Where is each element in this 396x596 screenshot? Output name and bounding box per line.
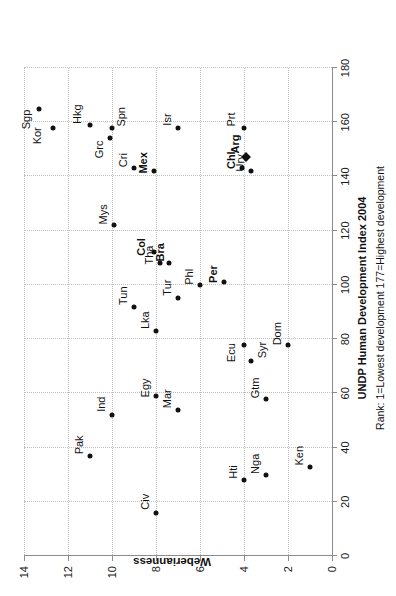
x-axis-tick	[332, 284, 337, 285]
gridline-horizontal	[244, 68, 245, 556]
data-point[interactable]	[88, 122, 93, 127]
x-axis-tick-label: 60	[339, 387, 351, 399]
data-point-label: Spn	[115, 107, 127, 127]
gridline-horizontal	[112, 68, 113, 556]
x-axis-tick-label: 120	[339, 221, 351, 239]
x-axis-tick-label: 100	[339, 276, 351, 294]
gridline-vertical	[24, 175, 332, 176]
data-point-label: Ken	[293, 446, 305, 466]
gridline-vertical	[24, 501, 332, 502]
data-point[interactable]	[132, 304, 137, 309]
data-point[interactable]	[176, 296, 181, 301]
data-point-label: Prt	[225, 112, 237, 126]
data-point-label: Egy	[139, 378, 151, 397]
data-point[interactable]	[154, 510, 159, 515]
x-axis-tick-label: 140	[339, 167, 351, 185]
x-axis-title: UNDP Human Development Index 2004	[356, 0, 368, 596]
x-axis-tick-label: 0	[339, 553, 351, 559]
data-point-label: Gtm	[249, 378, 261, 399]
x-axis-subtitle: Rank: 1=Lowest development 177=Highest d…	[374, 0, 386, 596]
data-point[interactable]	[242, 342, 247, 347]
gridline-horizontal	[200, 68, 201, 556]
data-point[interactable]	[248, 169, 253, 174]
data-point[interactable]	[308, 464, 313, 469]
data-point[interactable]	[264, 396, 269, 401]
y-axis-tick	[332, 556, 333, 561]
plot-area	[24, 68, 332, 556]
data-point[interactable]	[37, 106, 42, 111]
data-point-label: Ecu	[225, 343, 237, 362]
data-point-label: Civ	[139, 494, 151, 510]
data-point[interactable]	[112, 223, 117, 228]
x-axis-line	[332, 67, 333, 556]
x-axis-tick-label: 180	[339, 59, 351, 77]
gridline-vertical	[24, 338, 332, 339]
data-point[interactable]	[151, 169, 156, 174]
gridline-vertical	[24, 230, 332, 231]
data-point[interactable]	[154, 328, 159, 333]
data-point-label: Mar	[161, 389, 173, 408]
data-point-label: Dom	[271, 322, 283, 345]
data-point-label: Grc	[93, 140, 105, 158]
data-point-label: Pak	[73, 435, 85, 454]
gridline-vertical	[24, 447, 332, 448]
data-point[interactable]	[242, 478, 247, 483]
gridline-vertical	[24, 284, 332, 285]
y-axis-title: Weberianness	[22, 556, 322, 568]
gridline-horizontal	[156, 68, 157, 556]
data-point[interactable]	[286, 342, 291, 347]
rotated-chart-canvas: 02040608010012014016018002468101214 SgpK…	[0, 0, 396, 596]
data-point[interactable]	[248, 358, 253, 363]
x-axis-tick	[332, 338, 337, 339]
data-point[interactable]	[167, 261, 172, 266]
x-axis-tick	[332, 67, 337, 68]
data-point-label: Kor	[31, 127, 43, 144]
data-point[interactable]	[176, 407, 181, 412]
x-axis-tick	[332, 121, 337, 122]
x-axis-tick-label: 80	[339, 333, 351, 345]
x-axis-tick	[332, 447, 337, 448]
data-point[interactable]	[88, 453, 93, 458]
gridline-horizontal	[68, 68, 69, 556]
data-point-label: Mex	[137, 152, 149, 173]
gridline-vertical	[24, 67, 332, 68]
data-point-label: Hti	[227, 465, 239, 478]
data-point-label: Mys	[97, 204, 109, 224]
data-point[interactable]	[132, 166, 137, 171]
data-point-label: Nga	[249, 454, 261, 474]
data-point-label: Ind	[95, 397, 107, 412]
data-point[interactable]	[110, 125, 115, 130]
y-axis-tick-label: 0	[326, 566, 338, 572]
gridline-vertical	[24, 392, 332, 393]
data-point[interactable]	[242, 125, 247, 130]
data-point-label: Syr	[256, 342, 268, 359]
data-point[interactable]	[176, 125, 181, 130]
data-point[interactable]	[50, 125, 55, 130]
x-axis-tick	[332, 230, 337, 231]
gridline-horizontal	[288, 68, 289, 556]
data-point-label: Bra	[154, 243, 166, 261]
data-point[interactable]	[222, 280, 227, 285]
data-point-label: Arg	[229, 134, 241, 153]
data-point[interactable]	[264, 472, 269, 477]
x-axis-tick-label: 40	[339, 441, 351, 453]
data-point-label: Lka	[139, 311, 151, 329]
x-axis-tick	[332, 392, 337, 393]
data-point-label: Tun	[117, 286, 129, 305]
gridline-horizontal	[24, 68, 25, 556]
data-point-label: Hkg	[71, 104, 83, 124]
data-point[interactable]	[198, 282, 203, 287]
x-axis-tick	[332, 501, 337, 502]
x-axis-tick-label: 160	[339, 113, 351, 131]
x-axis-tick-label: 20	[339, 496, 351, 508]
data-point-label: Per	[207, 265, 219, 283]
data-point-label: Phl	[183, 269, 195, 285]
data-point-label: Cri	[117, 153, 129, 167]
data-point-label: Isr	[161, 113, 173, 125]
data-point[interactable]	[107, 136, 112, 141]
data-point-label: Tur	[161, 280, 173, 296]
x-axis-tick	[332, 175, 337, 176]
data-point[interactable]	[154, 394, 159, 399]
data-point[interactable]	[110, 413, 115, 418]
